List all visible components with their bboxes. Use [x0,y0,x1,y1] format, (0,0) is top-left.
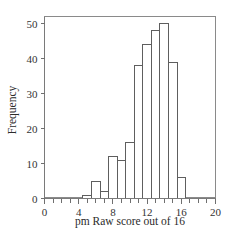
y-axis-tick-label: 10 [27,158,39,170]
histogram-bar [109,157,118,199]
histogram-bar [177,178,186,199]
histogram-bars [83,24,186,199]
histogram-bar [126,143,135,199]
y-axis-tick-label: 40 [27,53,39,65]
histogram-bar [143,45,152,199]
y-axis-tick-label: 50 [27,18,39,30]
y-axis-tick-label: 0 [32,193,38,205]
y-axis-tick-labels: 01020304050 [27,18,39,205]
x-axis-ticks [45,199,216,204]
histogram-bar [134,66,143,199]
histogram-bar [160,24,169,199]
y-axis-tick-label: 20 [27,123,39,135]
histogram-bar [117,160,126,199]
histogram-bar [168,62,177,199]
x-axis-tick-label: 20 [210,206,222,218]
y-axis-title: Frequency [6,85,19,134]
histogram-bar [100,192,109,199]
y-axis-tick-label: 30 [27,88,39,100]
histogram-figure: 01020304050 048121620 pm Raw score out o… [0,0,239,242]
y-axis-ticks [41,24,45,199]
x-axis-tick-label: 0 [42,206,48,218]
chart-canvas: 01020304050 048121620 pm Raw score out o… [0,0,239,242]
x-axis-title: pm Raw score out of 16 [75,215,185,228]
histogram-bar [151,31,160,199]
histogram-bar [92,181,101,199]
